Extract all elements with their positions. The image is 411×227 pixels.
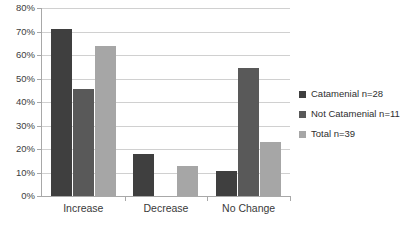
y-axis-tick-label: 40% — [1, 97, 35, 107]
x-axis-category-label: No Change — [207, 203, 290, 215]
bar — [177, 166, 198, 196]
y-axis-tick — [37, 149, 42, 150]
bar — [238, 68, 259, 196]
bar-group — [207, 8, 290, 196]
y-axis: 0%10%20%30%40%50%60%70%80% — [0, 0, 35, 227]
bar — [51, 29, 72, 196]
x-axis-line — [42, 196, 290, 197]
legend-item-label: Not Catamenial n=11 — [311, 109, 400, 119]
y-axis-tick-label: 30% — [1, 121, 35, 131]
bar-group — [42, 8, 125, 196]
y-axis-tick — [37, 126, 42, 127]
bar-chart: 0%10%20%30%40%50%60%70%80% Catamenial n=… — [0, 0, 411, 227]
legend-item: Total n=39 — [299, 126, 411, 142]
x-axis-tick — [125, 196, 126, 201]
y-axis-tick-label: 80% — [1, 3, 35, 13]
legend-swatch-icon — [299, 131, 306, 138]
y-axis-tick — [37, 196, 42, 197]
x-axis-tick — [207, 196, 208, 201]
legend-item: Catamenial n=28 — [299, 86, 411, 102]
legend-item-label: Catamenial n=28 — [311, 89, 383, 99]
x-axis-tick — [290, 196, 291, 201]
bar — [95, 46, 116, 196]
y-axis-tick-label: 20% — [1, 144, 35, 154]
legend-swatch-icon — [299, 91, 306, 98]
plot-area — [42, 8, 290, 196]
legend-swatch-icon — [299, 111, 306, 118]
y-axis-tick — [37, 8, 42, 9]
y-axis-tick-label: 50% — [1, 74, 35, 84]
y-axis-tick — [37, 173, 42, 174]
bar-group — [125, 8, 208, 196]
chart-legend: Catamenial n=28Not Catamenial n=11Total … — [299, 86, 411, 146]
y-axis-tick-label: 70% — [1, 27, 35, 37]
x-axis-category-label: Increase — [42, 203, 125, 215]
y-axis-tick-label: 0% — [1, 191, 35, 201]
bar — [133, 154, 154, 196]
bar — [216, 171, 237, 196]
legend-item-label: Total n=39 — [311, 129, 355, 139]
x-axis-category-label: Decrease — [125, 203, 208, 215]
y-axis-tick — [37, 79, 42, 80]
y-axis-tick-label: 10% — [1, 168, 35, 178]
y-axis-tick — [37, 102, 42, 103]
bar — [260, 142, 281, 196]
y-axis-tick — [37, 32, 42, 33]
y-axis-tick-label: 60% — [1, 50, 35, 60]
y-axis-tick — [37, 55, 42, 56]
bar — [73, 89, 94, 196]
legend-item: Not Catamenial n=11 — [299, 106, 411, 122]
